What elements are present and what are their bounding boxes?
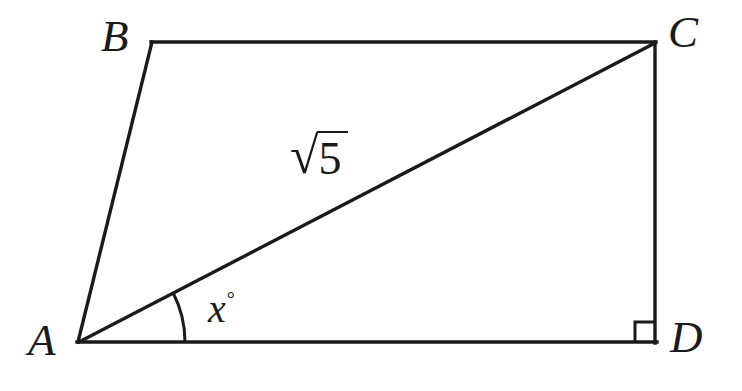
angle-variable: x [208, 286, 226, 331]
diagonal-AC [79, 43, 655, 342]
angle-label-x: x° [208, 289, 234, 329]
vertex-label-b: B [101, 14, 129, 59]
diagonal-length-label: √5 [290, 128, 348, 180]
radical-sign: √ [290, 130, 319, 182]
radicand-value: 5 [317, 131, 348, 182]
side-AB [78, 42, 152, 342]
vertex-label-c: C [668, 10, 698, 55]
geometry-figure: A B C D x° √5 [0, 0, 742, 391]
angle-arc-at-A [173, 293, 185, 342]
right-angle-marker-at-D [635, 322, 655, 342]
degree-symbol: ° [227, 288, 235, 310]
vertex-label-a: A [28, 318, 56, 363]
vertex-label-d: D [670, 315, 703, 360]
